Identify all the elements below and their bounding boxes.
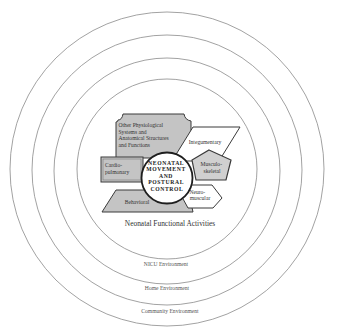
musculoskeletal-label: Musculo- skeletal (201, 161, 224, 174)
behavioral-label: Behavioral (125, 199, 150, 205)
community-environment-label: Community Environment (141, 308, 199, 314)
integumentary-label: Integumentary (189, 139, 222, 145)
home-environment-label: Home Environment (145, 285, 190, 291)
functional-activities-label: Neonatal Functional Activities (125, 219, 215, 228)
nicu-environment-label: NICU Environment (144, 261, 189, 267)
cardiopulmonary-box: Cardio- pulmonary (101, 157, 143, 182)
core-circle: NEONATAL MOVEMENT AND POSTURAL CONTROL (142, 153, 193, 204)
neonatal-model-diagram: Other Physiological Systems and Anatomic… (0, 0, 337, 333)
